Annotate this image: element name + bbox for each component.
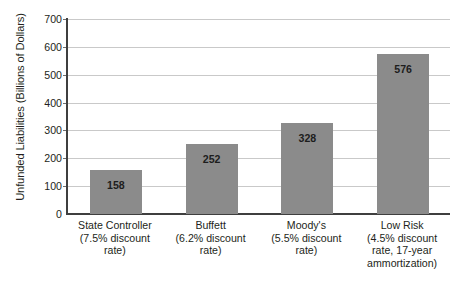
bar[interactable]: 158 [90,170,142,214]
x-axis-category-label-line: Moody's [259,219,355,232]
y-axis-tick-label: 400 [28,98,62,109]
bars-layer: 158252328576 [67,19,450,214]
x-axis-category-label: Buffett(6.2% discountrate) [163,219,259,257]
x-axis-category-label-line: (4.5% discount [354,232,450,245]
x-axis-category-label: Low Risk(4.5% discountrate, 17-yearammor… [354,219,450,269]
x-axis-category-label-line: (7.5% discount [67,232,163,245]
x-axis-category-label-line: rate) [259,244,355,257]
bar[interactable]: 252 [186,144,238,214]
x-axis-category-label-line: Low Risk [354,219,450,232]
x-axis-category-label: Moody's(5.5% discountrate) [259,219,355,257]
bar-value-label: 328 [281,133,333,144]
y-axis-tick-label: 600 [28,42,62,53]
y-axis-tick-labels: 7006005004003002001000 [28,19,62,214]
bar[interactable]: 328 [281,123,333,214]
x-axis-category-label-line: ammortization) [354,257,450,270]
y-axis-tick-label: 0 [28,209,62,220]
x-axis-category-labels: State Controller(7.5% discountrate)Buffe… [67,219,450,285]
x-axis-category-label: State Controller(7.5% discountrate) [67,219,163,257]
bar-value-label: 252 [186,154,238,165]
x-axis-category-label-line: (6.2% discount [163,232,259,245]
bar-value-label: 158 [90,180,142,191]
x-axis-category-label-line: Buffett [163,219,259,232]
y-axis-tick-label: 300 [28,125,62,136]
x-axis-category-label-line: rate) [67,244,163,257]
bar-value-label: 576 [377,64,429,75]
y-axis-tick-label: 100 [28,181,62,192]
x-axis-category-label-line: rate, 17-year [354,244,450,257]
x-axis-category-label-line: rate) [163,244,259,257]
bar-chart: Unfunded Liabilities (Billions of Dollar… [0,0,465,288]
x-axis-category-label-line: State Controller [67,219,163,232]
bar[interactable]: 576 [377,54,429,214]
y-axis-title: Unfunded Liabilities (Billions of Dollar… [11,0,29,222]
y-axis-tick-label: 700 [28,14,62,25]
y-axis-tick-label: 200 [28,153,62,164]
y-axis-tick-label: 500 [28,70,62,81]
x-axis-category-label-line: (5.5% discount [259,232,355,245]
